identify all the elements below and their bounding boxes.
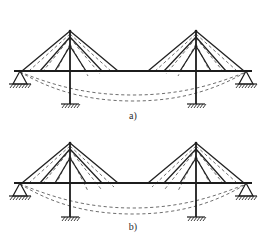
stay-right-a-fwd-3 xyxy=(180,46,196,71)
figure-root: a) xyxy=(0,0,266,246)
stay-shadow-right-a-4 xyxy=(154,34,196,72)
structural-diagram-b xyxy=(0,125,266,225)
deflection-curve-inner-b xyxy=(20,184,246,208)
deflection-curve-group-a xyxy=(20,72,246,101)
support-triangle-right-a xyxy=(239,71,253,84)
deflection-curve-group-b xyxy=(20,184,246,214)
support-right-end-b xyxy=(235,183,257,200)
stay-left-a-back-3 xyxy=(55,46,70,71)
stay-left-b-fwd-1 xyxy=(70,143,118,183)
support-right-end-a xyxy=(235,71,257,88)
ground-hatch-left-b xyxy=(10,196,31,200)
stay-right-b-back-3 xyxy=(196,158,211,183)
deflection-curve-a xyxy=(20,72,246,101)
support-triangle-left-a xyxy=(13,71,27,84)
stay-left-a-fwd-1 xyxy=(70,31,118,71)
panel-caption-a: a) xyxy=(0,110,266,121)
stay-right-a-fwd-1 xyxy=(148,31,196,71)
stay-shadow-right-b-1 xyxy=(196,146,236,182)
support-right-column-base-a xyxy=(187,104,206,108)
panel-caption-b: b) xyxy=(0,221,266,232)
stay-right-b-fwd-1 xyxy=(148,143,196,183)
deflection-curve-b xyxy=(20,184,246,214)
support-triangle-left-b xyxy=(13,183,27,196)
structural-diagram-a xyxy=(0,0,266,110)
apex-node-left-a xyxy=(69,30,72,33)
ground-hatch-right-b xyxy=(236,196,257,200)
stay-right-b-fwd-3 xyxy=(180,158,196,183)
apex-node-right-b xyxy=(195,142,198,145)
stay-shadow-left-a-4 xyxy=(70,34,112,72)
figure-panel-b: b) xyxy=(0,125,266,246)
stay-right-a-back-3 xyxy=(196,46,211,71)
stay-shadow-left-b-1 xyxy=(30,146,70,182)
support-triangle-right-b xyxy=(239,183,253,196)
stay-left-a-fwd-3 xyxy=(70,46,86,71)
support-left-end-b xyxy=(9,183,31,200)
support-left-column-base-a xyxy=(61,104,80,108)
support-left-end-a xyxy=(9,71,31,88)
stay-shadow-right-a-1 xyxy=(196,34,236,70)
stay-left-b-fwd-3 xyxy=(70,158,86,183)
stay-shadow-left-b-4 xyxy=(70,146,114,187)
stay-shadow-right-b-4 xyxy=(152,146,196,187)
figure-panel-a: a) xyxy=(0,0,266,125)
deflection-curve-inner-a xyxy=(20,72,246,95)
stay-left-b-back-3 xyxy=(55,158,70,183)
apex-node-right-a xyxy=(195,30,198,33)
apex-node-left-b xyxy=(69,142,72,145)
stay-shadow-left-a-1 xyxy=(30,34,70,70)
